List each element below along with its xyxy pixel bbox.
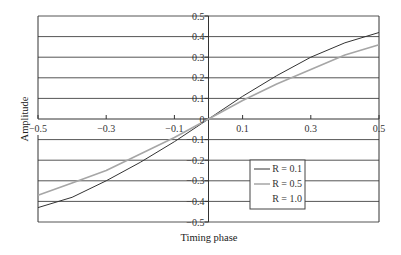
x-tick-label: −0.5 <box>29 123 47 134</box>
y-tick-label: 0.2 <box>192 72 205 83</box>
legend-label-r10: R = 1.0 <box>272 193 302 204</box>
x-axis-label: Timing phase <box>180 232 237 243</box>
x-tick-label: 0.3 <box>305 123 318 134</box>
y-axis-label: Amplitude <box>19 96 30 141</box>
legend-label-r05: R = 0.5 <box>272 178 302 189</box>
x-tick-label: −0.3 <box>97 123 115 134</box>
x-tick-label: 0.1 <box>236 123 249 134</box>
y-tick-label: 0.5 <box>192 11 205 22</box>
legend-label-r01: R = 0.1 <box>272 163 302 174</box>
y-tick-label: 0.1 <box>192 93 205 104</box>
y-tick-label: 0.3 <box>192 52 205 63</box>
x-tick-label: 0.5 <box>373 123 386 134</box>
y-tick-label: −0.1 <box>186 134 204 145</box>
y-tick-label: 0 <box>200 114 205 125</box>
y-tick-label: −0.2 <box>186 155 204 166</box>
y-tick-label: 0.4 <box>192 31 205 42</box>
y-tick-label: −0.3 <box>186 175 204 186</box>
x-tick-labels: −0.5−0.3−0.10.10.30.5 <box>29 123 385 134</box>
y-tick-label: −0.5 <box>186 217 204 228</box>
line-chart: 0.50.40.30.20.10−0.1−0.2−0.3−0.4−0.5 −0.… <box>0 0 401 255</box>
y-tick-label: −0.4 <box>186 196 204 207</box>
legend: R = 0.1 R = 0.5 R = 1.0 <box>250 160 305 209</box>
x-tick-label: −0.1 <box>165 123 183 134</box>
